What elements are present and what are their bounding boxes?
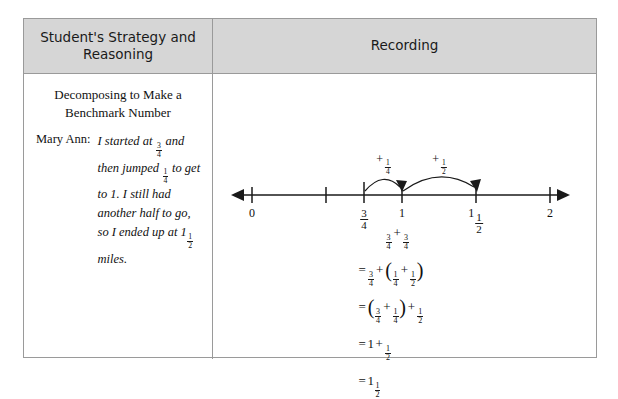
column-header-student-strategy: Student's Strategy and Reasoning bbox=[24, 19, 213, 73]
column-header-recording: Recording bbox=[213, 19, 596, 73]
axis-arrow-right bbox=[557, 189, 570, 201]
fraction-1-4-l3: 14 bbox=[393, 308, 399, 326]
recording-cell: +14 +12 0 34 1 112 2 34+34 =34+(14+1 bbox=[213, 74, 596, 359]
student-dialogue: Mary Ann: I started at 34 and then jumpe… bbox=[24, 132, 212, 269]
number-line-graphic bbox=[213, 132, 598, 214]
whole-number-one-l4: 1 bbox=[367, 336, 374, 351]
fraction-1-2-l3: 12 bbox=[417, 308, 423, 326]
jump-label-plus-one-half: +12 bbox=[431, 152, 447, 176]
quote-part-1: I started at bbox=[98, 134, 156, 148]
quote-part-4: miles. bbox=[98, 252, 128, 266]
fraction-1-4-l2: 14 bbox=[393, 271, 399, 289]
equation-line-5: =112 bbox=[213, 362, 596, 399]
fraction-one-half: 12 bbox=[187, 233, 193, 250]
equation-line-1: 34+34 bbox=[213, 214, 596, 251]
whole-number-one-l5: 1 bbox=[367, 373, 374, 388]
jump-arrowhead-quarter bbox=[396, 180, 407, 192]
fraction-1-2-l4: 12 bbox=[385, 345, 391, 363]
recording-equations: 34+34 =34+(14+12) =(34+14)+12 =1+12 =112 bbox=[213, 214, 596, 399]
fraction-one-half-label: 12 bbox=[441, 159, 447, 175]
fraction-1-2-l2: 12 bbox=[410, 271, 416, 289]
fraction-three-fourths: 34 bbox=[156, 142, 162, 159]
equation-line-2: =34+(14+12) bbox=[213, 251, 596, 288]
table-header-row: Student's Strategy and Reasoning Recordi… bbox=[24, 19, 596, 74]
table-body-row: Decomposing to Make a Benchmark Number M… bbox=[24, 74, 596, 359]
strategy-recording-table: Student's Strategy and Reasoning Recordi… bbox=[23, 18, 597, 358]
jump-arc-quarter bbox=[365, 179, 400, 191]
fraction-3-4-b: 34 bbox=[403, 234, 409, 252]
student-strategy-cell: Decomposing to Make a Benchmark Number M… bbox=[24, 74, 213, 359]
fraction-1-2-l5: 12 bbox=[375, 382, 381, 399]
student-quote: I started at 34 and then jumped 14 to ge… bbox=[98, 132, 202, 269]
fraction-3-4-l2: 34 bbox=[368, 271, 374, 289]
fraction-one-fourth-label: 14 bbox=[385, 159, 391, 175]
fraction-3-4-l3: 34 bbox=[375, 308, 381, 326]
strategy-title: Decomposing to Make a Benchmark Number bbox=[24, 74, 212, 121]
jump-label-plus-one-fourth: +14 bbox=[375, 152, 391, 176]
equation-line-4: =1+12 bbox=[213, 325, 596, 362]
fraction-3-4: 34 bbox=[386, 234, 392, 252]
equation-line-3: =(34+14)+12 bbox=[213, 288, 596, 325]
fraction-one-fourth: 14 bbox=[163, 168, 169, 185]
speaker-name: Mary Ann: bbox=[36, 132, 91, 147]
axis-arrow-left bbox=[231, 189, 244, 201]
number-line: +14 +12 0 34 1 112 2 bbox=[213, 132, 596, 214]
jump-arc-half bbox=[403, 177, 474, 191]
